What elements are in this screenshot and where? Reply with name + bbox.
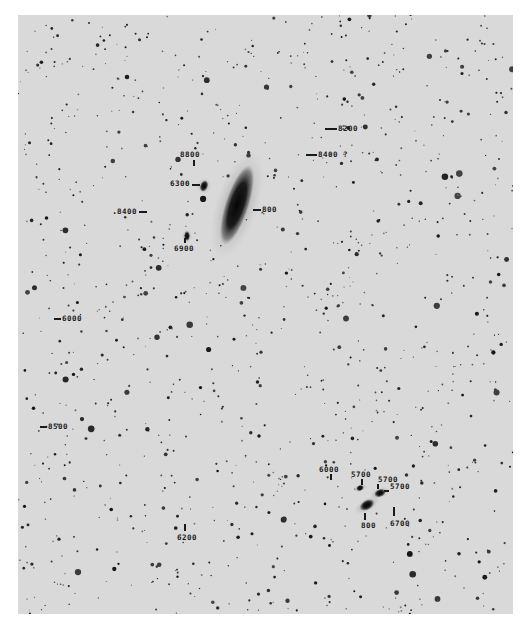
star (368, 31, 369, 32)
star (104, 504, 105, 505)
star (343, 286, 344, 287)
star (46, 76, 47, 77)
star (30, 562, 33, 565)
star (426, 85, 428, 87)
star (359, 303, 361, 305)
star (127, 229, 129, 231)
star (128, 385, 130, 387)
pointer-line (384, 490, 389, 492)
star (96, 43, 100, 47)
star (427, 390, 429, 392)
star (131, 585, 132, 586)
star (431, 426, 433, 428)
star (213, 132, 214, 133)
star (96, 548, 98, 550)
star (450, 446, 453, 449)
star (349, 285, 350, 286)
star (510, 88, 512, 90)
star (342, 272, 345, 275)
star (48, 154, 50, 156)
star (425, 544, 427, 546)
star (433, 482, 435, 484)
star (499, 343, 502, 346)
star (354, 75, 356, 77)
star (324, 460, 327, 463)
star (273, 174, 276, 177)
star (121, 148, 123, 150)
star (316, 309, 318, 311)
star (298, 501, 300, 503)
star (176, 576, 178, 578)
star (363, 349, 365, 351)
star (167, 396, 170, 399)
star (203, 401, 205, 403)
star (27, 599, 28, 600)
star (378, 219, 380, 221)
star (449, 501, 450, 502)
star (118, 78, 119, 79)
star (196, 142, 198, 144)
star (338, 506, 340, 508)
star (511, 190, 513, 192)
star (512, 185, 513, 186)
star (154, 335, 159, 340)
star (206, 323, 207, 324)
star (309, 29, 311, 31)
star (497, 566, 498, 567)
star (493, 215, 494, 216)
star (373, 152, 374, 153)
star (313, 525, 317, 529)
star (95, 286, 97, 288)
star (401, 610, 403, 612)
star (40, 60, 44, 64)
star (116, 551, 117, 552)
star (323, 176, 324, 177)
star (381, 255, 383, 257)
star (362, 152, 364, 154)
star (397, 203, 400, 206)
star (475, 312, 479, 316)
star (395, 164, 397, 166)
star (309, 535, 313, 539)
star (64, 464, 66, 466)
star (487, 321, 489, 323)
star (255, 506, 257, 508)
star (469, 234, 471, 236)
star (18, 499, 19, 500)
star (180, 117, 183, 120)
pointer-line (253, 209, 261, 211)
star (147, 542, 148, 543)
star (400, 174, 402, 176)
star (386, 527, 387, 528)
star (436, 234, 440, 238)
star (393, 421, 395, 423)
star (228, 122, 230, 124)
star (194, 596, 195, 597)
star (313, 123, 315, 125)
star (274, 169, 278, 173)
star (436, 366, 437, 367)
star (278, 478, 280, 480)
star (161, 441, 163, 443)
star (364, 292, 366, 294)
star (341, 104, 343, 106)
star (251, 53, 252, 54)
star (418, 519, 422, 523)
star (149, 246, 150, 247)
star (33, 567, 35, 569)
star (357, 385, 359, 387)
star (174, 526, 178, 530)
star (327, 294, 329, 296)
star (364, 114, 365, 115)
star (457, 58, 459, 60)
star (259, 268, 262, 271)
star (47, 456, 48, 457)
star (72, 310, 74, 312)
star (480, 25, 482, 27)
star (400, 147, 402, 149)
pointer-line (139, 211, 147, 213)
star (232, 365, 233, 366)
velocity-label-v800b: 800 (361, 521, 376, 530)
star (267, 511, 270, 514)
star (23, 505, 26, 508)
